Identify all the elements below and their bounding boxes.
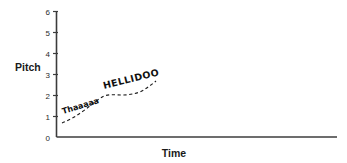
pitch-contour-chart-figure: 6 5 4 3 2 1 0 Pitch Time Thaaaaa HELLIDO… — [0, 0, 347, 163]
y-tick-label-4: 4 — [46, 50, 51, 59]
handwritten-label-thaaaaa: Thaaaaa — [61, 96, 100, 116]
handwritten-label-hellidoo: HELLIDOO — [102, 66, 160, 91]
y-tick-label-3: 3 — [46, 71, 51, 80]
x-axis-title: Time — [162, 147, 186, 159]
y-tick-label-1: 1 — [46, 113, 51, 122]
y-tick-label-6: 6 — [46, 8, 51, 17]
y-tick-label-0: 0 — [46, 134, 51, 143]
y-axis-title: Pitch — [15, 61, 41, 73]
chart-canvas: 6 5 4 3 2 1 0 Pitch Time Thaaaaa HELLIDO… — [0, 0, 347, 163]
y-tick-label-5: 5 — [46, 29, 51, 38]
y-tick-label-2: 2 — [46, 92, 51, 101]
